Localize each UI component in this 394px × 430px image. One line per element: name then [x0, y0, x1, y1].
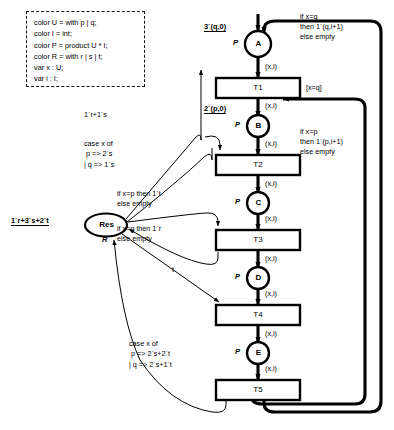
colorset-label-B: P: [235, 120, 240, 129]
decl-line-5: var i : I;: [34, 73, 144, 84]
place-label-A: A: [250, 39, 267, 48]
arcexp-Res-to-T3-a: if x=p then 1`t else empty: [117, 189, 161, 210]
arc-Res-to-T2: [205, 136, 220, 150]
decl-line-1: color I = int;: [34, 28, 144, 39]
arcexp-loop-to-A: if x=q then 1`(q,i+1) else empty: [300, 12, 343, 43]
arcexp-T1-B: (x,i): [265, 101, 277, 111]
colorset-label-Res: R: [102, 235, 107, 244]
arc-T5-to-Res: [114, 240, 226, 412]
arcexp-T2-C: (x,i): [265, 179, 277, 189]
guard-T1: [x=q]: [306, 83, 322, 92]
arcexp-C-T3: (x,i): [265, 214, 277, 224]
colorset-label-E: P: [235, 347, 240, 356]
arcexp-D-T4: (x,i): [265, 289, 277, 299]
decl-line-2: color P = product U * I;: [34, 40, 144, 51]
arcexp-B-T2: (x,i): [265, 139, 277, 149]
transition-label-T1: T1: [216, 83, 300, 92]
place-label-B: B: [250, 121, 267, 130]
declaration-box: color U = with p | q; color I = int; col…: [26, 11, 145, 87]
marking-A: 3`(q,0): [204, 22, 226, 32]
arcexp-Res-to-T3-b: if x=q then 1`r else empty: [117, 224, 161, 245]
arcexp-Res-to-T5: case x of p => 2`s+2`t | q => 2`s+1`t: [129, 339, 172, 370]
transition-label-T4: T4: [216, 310, 300, 319]
arcexp-Res-to-T2: case x of p => 2`s | q => 1`s: [84, 139, 114, 170]
marking-B: 2`(p,0): [204, 104, 226, 114]
decl-line-0: color U = with p | q;: [34, 17, 144, 28]
place-label-D: D: [250, 273, 267, 282]
arc-Res-to-T2-seg: [127, 148, 212, 222]
arcexp-E-T5: (x,i): [265, 364, 277, 374]
colorset-label-A: P: [233, 38, 238, 47]
arcexp-T4-E: (x,i): [265, 329, 277, 339]
arcexp-A-T1: (x,i): [265, 62, 277, 72]
decl-line-4: var x : U;: [34, 62, 144, 73]
arcexp-Res-to-T1: 1`r+1`s: [84, 110, 107, 120]
arcexp-Res-to-T4: t: [172, 265, 174, 275]
place-label-C: C: [250, 198, 267, 207]
colorset-label-C: P: [235, 197, 240, 206]
transition-label-T5: T5: [216, 385, 300, 394]
colorset-label-D: P: [235, 272, 240, 281]
arcexp-loop-to-B: if x=p then 1`(p,i+1) else empty: [300, 127, 343, 158]
transition-label-T2: T2: [216, 160, 300, 169]
transition-label-T3: T3: [216, 235, 300, 244]
decl-line-3: color R = with r | s | t;: [34, 51, 144, 62]
marking-Res: 1`r+3`s+2`t: [11, 216, 49, 226]
arcexp-T3-D: (x,i): [265, 254, 277, 264]
place-label-E: E: [250, 348, 267, 357]
cpn-diagram-canvas: color U = with p | q; color I = int; col…: [0, 0, 394, 430]
